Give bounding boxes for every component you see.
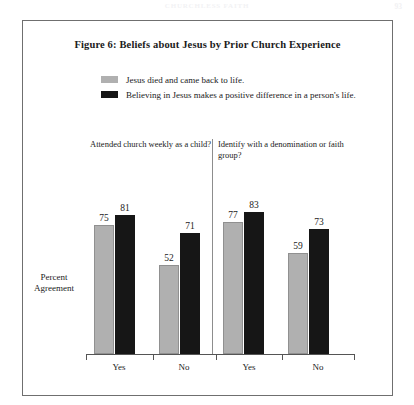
plot-area: Attended church weekly as a child? Ident… — [24, 139, 393, 396]
x-axis-tick — [216, 354, 217, 360]
x-axis-tick-label: Yes — [89, 362, 149, 372]
y-axis-label: Percent Agreement — [23, 272, 85, 294]
x-axis-tick-label: No — [288, 362, 348, 372]
bar-value-label: 77 — [228, 210, 238, 220]
legend-item-label: Believing in Jesus makes a positive diff… — [126, 90, 356, 100]
running-head: CHURCHLESS FAITH — [0, 2, 414, 10]
bar-value-label: 52 — [164, 253, 174, 263]
page-header: CHURCHLESS FAITH 93 — [0, 2, 414, 14]
legend-item-label: Jesus died and came back to life. — [126, 75, 244, 85]
x-axis-tick — [86, 354, 87, 360]
bar-rect — [115, 215, 135, 354]
figure-container: Figure 6: Beliefs about Jesus by Prior C… — [22, 20, 393, 396]
bar-value-label: 59 — [293, 241, 303, 251]
bar-rect — [223, 222, 243, 354]
group-header-denomination: Identify with a denomination or faith gr… — [218, 139, 363, 161]
x-axis-line — [86, 354, 354, 355]
bar-rect — [309, 229, 329, 354]
bar-rect — [288, 253, 308, 354]
panel-divider — [212, 139, 213, 355]
legend-swatch-icon — [101, 91, 118, 98]
chart-legend: Jesus died and came back to life. Believ… — [101, 72, 356, 102]
x-axis-tick — [282, 354, 283, 360]
group-header-attended-church: Attended church weekly as a child? — [90, 139, 230, 150]
legend-item: Believing in Jesus makes a positive diff… — [101, 87, 356, 102]
x-axis-tick-label: No — [154, 362, 214, 372]
bar-rect — [244, 212, 264, 354]
x-axis-tick — [153, 354, 154, 360]
bar-rect — [180, 233, 200, 354]
bar-rect — [159, 265, 179, 354]
bar-rect — [94, 225, 114, 354]
bar-value-label: 81 — [120, 203, 130, 213]
figure-title: Figure 6: Beliefs about Jesus by Prior C… — [23, 39, 392, 50]
bar-value-label: 83 — [249, 200, 259, 210]
bar-value-label: 71 — [185, 221, 195, 231]
x-axis-tick — [354, 354, 355, 360]
x-axis-tick-label: Yes — [219, 362, 279, 372]
bar-value-label: 75 — [99, 213, 109, 223]
y-axis-label-line1: Percent — [23, 272, 85, 283]
legend-item: Jesus died and came back to life. — [101, 72, 356, 87]
legend-swatch-icon — [101, 76, 118, 83]
bar-value-label: 73 — [314, 217, 324, 227]
page-number: 93 — [395, 2, 403, 11]
y-axis-label-line2: Agreement — [23, 283, 85, 294]
